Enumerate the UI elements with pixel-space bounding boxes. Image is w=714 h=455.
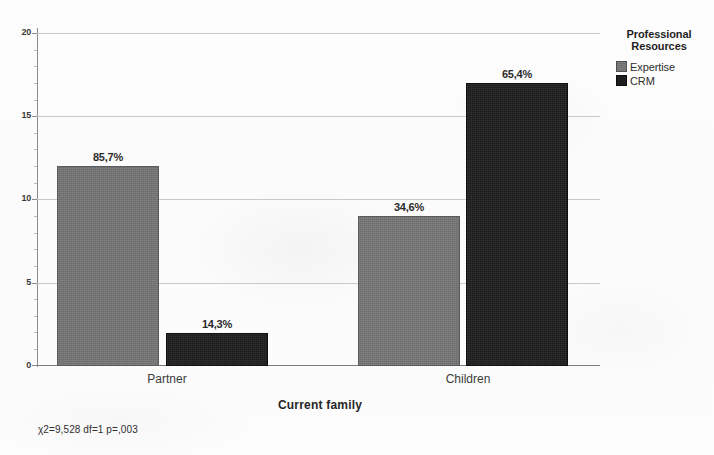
bar-label-children-expertise: 34,6% <box>358 201 460 213</box>
y-minor-tick-4 <box>34 100 37 101</box>
bar-partner-crm[interactable] <box>166 333 268 366</box>
y-minor-tick-3 <box>34 83 37 84</box>
x-category-label-children: Children <box>388 372 548 386</box>
y-tick-20 <box>32 33 37 34</box>
x-axis-title: Current family <box>0 398 640 412</box>
y-minor-tick-9 <box>34 216 37 217</box>
bar-label-children-crm: 65,4% <box>466 68 568 80</box>
legend-swatch-crm-icon <box>616 75 627 86</box>
bar-children-expertise[interactable] <box>358 216 460 366</box>
legend-item-crm[interactable]: CRM <box>616 74 713 87</box>
legend-title-line-1: Professional <box>605 28 713 40</box>
legend-label-expertise: Expertise <box>630 61 675 73</box>
y-tick-label-0: 0 <box>26 360 31 370</box>
legend: Professional Resources Expertise CRM <box>605 28 713 88</box>
y-tick-15 <box>32 116 37 117</box>
y-tick-10 <box>32 199 37 200</box>
legend-label-crm: CRM <box>630 75 655 87</box>
legend-title: Professional Resources <box>605 28 713 52</box>
bar-partner-expertise[interactable] <box>57 166 159 366</box>
y-minor-tick-2 <box>34 66 37 67</box>
plot-area: 85,7% 14,3% 34,6% 65,4% <box>37 33 600 366</box>
y-minor-tick-12 <box>34 266 37 267</box>
legend-swatch-expertise-icon <box>616 61 627 72</box>
y-minor-tick-15 <box>34 332 37 333</box>
legend-title-line-2: Resources <box>605 40 713 52</box>
y-minor-tick-16 <box>34 349 37 350</box>
y-tick-5 <box>32 283 37 284</box>
legend-items: Expertise CRM <box>605 60 713 87</box>
bar-children-crm[interactable] <box>466 83 568 366</box>
x-category-label-partner: Partner <box>87 372 247 386</box>
y-minor-tick-13 <box>34 299 37 300</box>
y-minor-tick-6 <box>34 149 37 150</box>
y-tick-label-10: 10 <box>21 193 31 203</box>
bar-chart: 20 15 10 5 0 <box>0 0 714 455</box>
y-minor-tick-7 <box>34 166 37 167</box>
gridline-20 <box>37 33 600 34</box>
y-minor-tick-8 <box>34 183 37 184</box>
chi-square-footnote: χ2=9,528 df=1 p=,003 <box>38 424 138 435</box>
y-minor-tick-14 <box>34 316 37 317</box>
legend-item-expertise[interactable]: Expertise <box>616 60 713 73</box>
y-axis-tick-labels: 20 15 10 5 0 <box>0 33 31 366</box>
y-tick-0 <box>32 365 37 366</box>
y-minor-tick-11 <box>34 249 37 250</box>
y-axis-line <box>37 28 38 367</box>
y-minor-tick-1 <box>34 50 37 51</box>
y-minor-tick-10 <box>34 233 37 234</box>
bar-label-partner-crm: 14,3% <box>166 318 268 330</box>
y-tick-label-15: 15 <box>21 110 31 120</box>
y-tick-label-5: 5 <box>26 277 31 287</box>
y-tick-label-20: 20 <box>21 27 31 37</box>
bar-label-partner-expertise: 85,7% <box>57 151 159 163</box>
y-minor-tick-5 <box>34 133 37 134</box>
